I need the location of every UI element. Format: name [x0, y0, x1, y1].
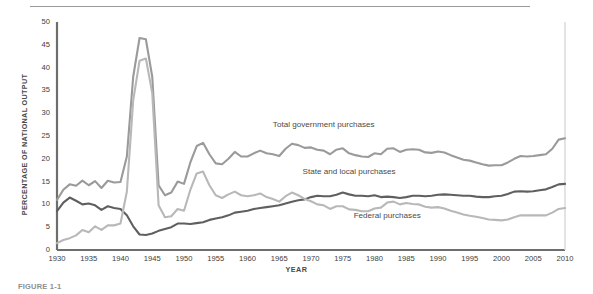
- series-label: Total government purchases: [273, 120, 375, 129]
- series-label: State and local purchases: [303, 167, 396, 176]
- x-axis-title: YEAR: [0, 265, 593, 274]
- figure-caption: FIGURE 1-1: [18, 282, 61, 291]
- line-chart-plot: [0, 0, 593, 294]
- series-line: [57, 184, 565, 235]
- figure-container: PERCENTAGE OF NATIONAL OUTPUT 0510152025…: [0, 0, 593, 294]
- series-label: Federal purchases: [354, 211, 421, 220]
